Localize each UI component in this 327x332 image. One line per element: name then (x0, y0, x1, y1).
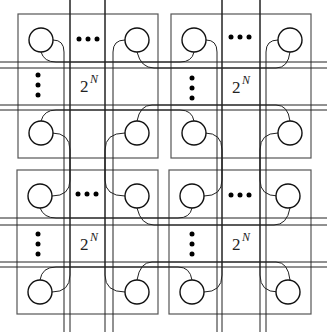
vertical-ellipsis (190, 232, 195, 257)
node-circle (180, 184, 204, 208)
module-size-label: 2 (232, 78, 241, 97)
node-circle (125, 121, 149, 145)
module-size-label: 2 (80, 235, 89, 254)
node-circle (125, 280, 149, 304)
vertical-ellipsis (36, 232, 41, 257)
module-size-label: 2 (80, 77, 89, 96)
module-size-exponent: N (89, 230, 99, 244)
node-circle (125, 184, 149, 208)
network-diagram: 2 N 2 N 2 N (0, 0, 327, 332)
vertical-ellipsis (36, 73, 41, 98)
node-circle (182, 121, 206, 145)
module-size-label: 2 (232, 235, 241, 254)
horizontal-ellipsis (77, 37, 100, 42)
module-top-left: 2 N (29, 28, 149, 145)
node-circle (276, 280, 300, 304)
node-circle (28, 184, 52, 208)
horizontal-ellipsis (76, 192, 99, 197)
module-size-exponent: N (241, 230, 251, 244)
node-circle (29, 121, 53, 145)
horizontal-ellipsis (229, 193, 252, 198)
node-circle (29, 28, 53, 52)
node-circle (125, 28, 149, 52)
node-circle (278, 28, 302, 52)
module-top-right: 2 N (182, 28, 302, 145)
node-circle (182, 28, 206, 52)
node-circle (180, 280, 204, 304)
module-bottom-left: 2 N (28, 184, 149, 304)
vertical-ellipsis (190, 76, 195, 101)
node-circle (28, 280, 52, 304)
node-circle (276, 184, 300, 208)
horizontal-ellipsis (229, 35, 252, 40)
module-bottom-right: 2 N (180, 184, 300, 304)
module-size-exponent: N (89, 72, 99, 86)
node-circle (278, 121, 302, 145)
module-size-exponent: N (241, 73, 251, 87)
